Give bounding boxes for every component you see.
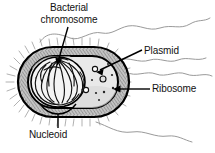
bacterial-cell-diagram: Bacterial chromosome Plasmid Ribosome Nu…: [0, 0, 215, 153]
label-plasmid: Plasmid: [144, 45, 179, 57]
plasmid-ring: [92, 66, 97, 71]
ribosome-dot: [91, 79, 93, 81]
ribosome-dot: [107, 63, 109, 65]
leader-ribosome: [113, 86, 150, 93]
ribosome-dot: [95, 92, 97, 94]
label-ribosome: Ribosome: [152, 83, 196, 95]
label-chromosome-line2: chromosome: [41, 14, 98, 25]
label-nucleoid: Nucleoid: [29, 129, 67, 141]
label-bacterial-chromosome: Bacterial chromosome: [30, 2, 108, 25]
label-chromosome-line1: Bacterial: [50, 2, 88, 13]
plasmid-ring: [83, 87, 88, 92]
ribosome-dot: [98, 99, 100, 101]
ribosome-dot: [111, 74, 113, 76]
plasmid-ring: [100, 76, 106, 82]
ribosome-dot: [103, 91, 105, 93]
